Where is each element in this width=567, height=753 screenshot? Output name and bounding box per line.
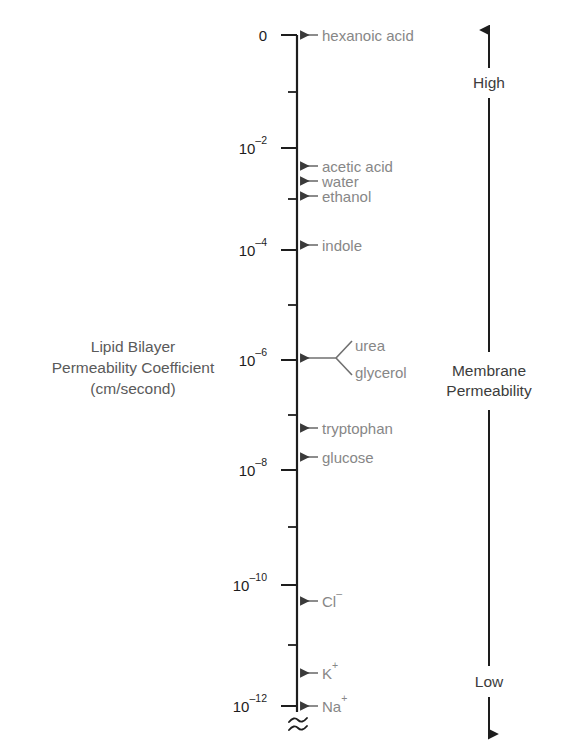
molecule-label-glucose: glucose <box>322 450 374 465</box>
leader-urea-glycerol <box>301 341 352 375</box>
molecule-label-sodium: Na+ <box>322 699 347 714</box>
permeability-scale-figure: Lipid Bilayer Permeability Coefficient (… <box>0 0 567 753</box>
molecule-label-urea: urea <box>355 338 385 353</box>
membrane-permeability-label: Membrane Permeability <box>446 361 531 401</box>
membrane-permeability-label-line-1: Membrane <box>446 361 531 381</box>
permeability-low-label: Low <box>475 672 503 692</box>
permeability-high-label: High <box>473 73 505 93</box>
molecule-label-potassium: K+ <box>322 666 338 681</box>
molecule-label-indole: indole <box>322 238 362 253</box>
molecule-label-acetic-acid: acetic acid <box>322 159 393 174</box>
molecule-label-water: water <box>322 174 359 189</box>
axis-break-icon <box>289 718 307 730</box>
leader-glycerol-branch <box>336 358 352 375</box>
molecule-label-hexanoic-acid: hexanoic acid <box>322 28 414 43</box>
molecule-label-chloride: Cl– <box>322 594 342 609</box>
membrane-permeability-label-line-2: Permeability <box>446 381 531 401</box>
molecule-label-glycerol: glycerol <box>355 365 407 380</box>
major-ticks <box>281 35 297 706</box>
minor-ticks <box>288 92 297 645</box>
molecule-leader-arrows <box>301 35 318 706</box>
leader-urea-branch <box>336 341 352 358</box>
molecule-label-ethanol: ethanol <box>322 189 371 204</box>
molecule-label-tryptophan: tryptophan <box>322 421 393 436</box>
